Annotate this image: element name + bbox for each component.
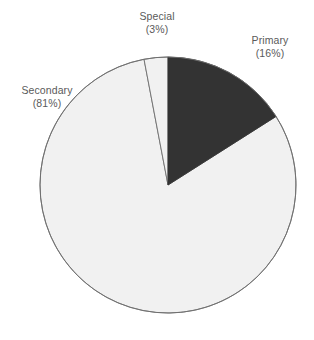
pie-label-primary: Primary (16%) bbox=[230, 34, 310, 60]
pie-label-primary-name: Primary bbox=[230, 34, 310, 47]
pie-label-special-name: Special bbox=[121, 10, 193, 23]
pie-label-special: Special (3%) bbox=[121, 10, 193, 36]
pie-label-secondary-value: (81%) bbox=[4, 97, 90, 110]
pie-label-primary-value: (16%) bbox=[230, 47, 310, 60]
pie-label-special-value: (3%) bbox=[121, 23, 193, 36]
pie-chart: Special (3%) Primary (16%) Secondary (81… bbox=[0, 0, 314, 340]
pie-label-secondary: Secondary (81%) bbox=[4, 84, 90, 110]
pie-label-secondary-name: Secondary bbox=[4, 84, 90, 97]
